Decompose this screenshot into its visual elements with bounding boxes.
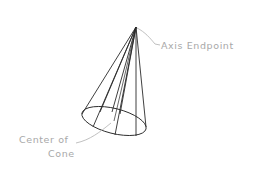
- cone-generator-line: [100, 27, 136, 112]
- axis-endpoint-leader: [137, 28, 160, 45]
- cone-generator-line: [112, 27, 136, 112]
- center-of-cone-label-line1: Center of: [19, 134, 69, 145]
- axis-endpoint-label: Axis Endpoint: [161, 40, 234, 51]
- cone-diagram: [0, 0, 255, 174]
- cone-wireframe: [79, 27, 149, 141]
- leader-lines: [76, 28, 160, 143]
- center-of-cone-label-line2: Cone: [48, 148, 75, 159]
- cone-generator-line: [136, 27, 146, 127]
- cone-axis-line: [114, 27, 136, 121]
